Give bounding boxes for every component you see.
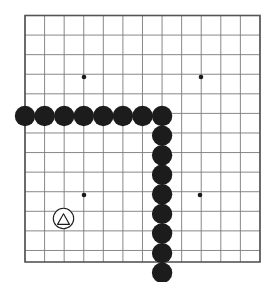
go-board-diagram [0,0,275,282]
black-stone-col-2[interactable] [152,125,172,145]
black-stone-row-3[interactable] [54,106,74,126]
black-stone-row-7[interactable] [132,106,152,126]
black-stone-row-2[interactable] [34,106,54,126]
black-stone-row-5[interactable] [93,106,113,126]
black-stone-col-6[interactable] [152,204,172,224]
star-top-right-icon [199,75,204,80]
black-stone-col-9[interactable] [152,263,172,282]
star-top-left-icon [82,75,87,80]
black-stone-col-4[interactable] [152,165,172,185]
star-bottom-right-icon [198,193,203,198]
goban-canvas[interactable] [0,0,275,282]
marked-stones-group[interactable] [53,208,73,228]
star-bottom-left-icon [82,193,87,198]
white-stone-body [53,208,73,228]
black-stone-col-5[interactable] [152,184,172,204]
black-stone-row-6[interactable] [113,106,133,126]
black-stone-corner[interactable] [152,106,172,126]
black-stone-col-7[interactable] [152,223,172,243]
black-stones-group[interactable] [15,106,173,282]
black-stone-col-3[interactable] [152,145,172,165]
white-stone-triangle-marked[interactable] [53,208,73,228]
black-stone-col-8[interactable] [152,243,172,263]
black-stone-row-4[interactable] [74,106,94,126]
black-stone-row-1[interactable] [15,106,35,126]
